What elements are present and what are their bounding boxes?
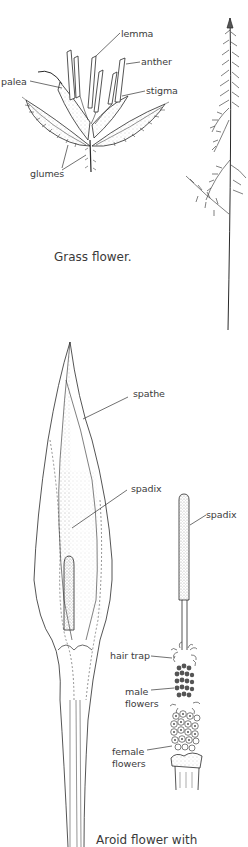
grass-leader-lines (30, 33, 145, 170)
botanical-illustration (0, 0, 248, 847)
caption-grass-flower: Grass flower. (54, 250, 132, 264)
label-palea: palea (1, 76, 27, 87)
grass-spikelet-drawing (22, 50, 169, 172)
label-female-flowers-line2: flowers (112, 758, 146, 769)
label-lemma: lemma (121, 28, 153, 39)
aroid-spadix-drawing (170, 494, 202, 790)
label-glumes: glumes (30, 168, 64, 179)
grass-panicle-drawing (186, 18, 246, 330)
label-male-flowers-line1: male (125, 686, 148, 697)
male-flowers-cluster (175, 664, 195, 698)
label-spadix-right: spadix (206, 509, 237, 520)
female-flowers-cluster (171, 711, 200, 751)
aroid-spathe-drawing (34, 342, 112, 847)
caption-aroid-flower: Aroid flower with (96, 833, 197, 847)
label-male-flowers-line2: flowers (125, 698, 159, 709)
label-hair-trap: hair trap (110, 650, 150, 661)
label-stigma: stigma (146, 85, 178, 96)
label-anther: anther (141, 56, 172, 67)
label-spadix-left: spadix (131, 483, 162, 494)
label-spathe: spathe (133, 388, 165, 399)
label-female-flowers-line1: female (112, 746, 144, 757)
